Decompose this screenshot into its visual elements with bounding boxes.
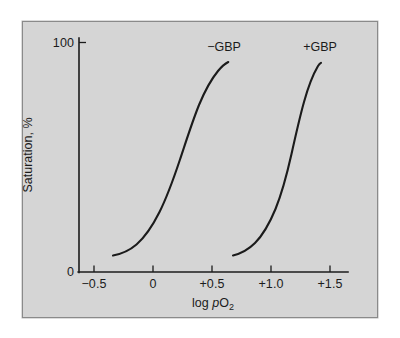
x-tick-label-plus-1-0: +1.0 <box>258 277 283 291</box>
figure-root: 100 0 −0.5 0 +0.5 +1.0 +1.5 Saturation, … <box>0 0 400 338</box>
curve-plus-gbp <box>233 63 321 256</box>
y-tick-label-0: 0 <box>58 265 74 279</box>
x-tick-label-0: 0 <box>149 277 156 291</box>
x-tick-label-plus-0-5: +0.5 <box>199 277 224 291</box>
curve-label-minus-gbp: −GBP <box>207 40 241 54</box>
x-tick-label-plus-1-5: +1.5 <box>317 277 342 291</box>
curve-label-plus-gbp: +GBP <box>303 40 337 54</box>
x-axis-title: log pO2 <box>192 296 234 310</box>
curve-minus-gbp <box>113 62 228 256</box>
y-tick-label-100: 100 <box>46 36 74 50</box>
x-axis-title-prefix: log <box>192 296 212 310</box>
y-axis-title: Saturation, % <box>21 117 35 192</box>
x-tick-label-minus-0-5: −0.5 <box>81 277 106 291</box>
x-axis-title-base: O <box>219 296 229 310</box>
x-axis-title-subscript: 2 <box>229 302 234 312</box>
